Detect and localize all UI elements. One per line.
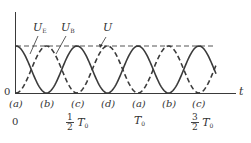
time-label-three-halves: 32 T0 (191, 113, 213, 132)
point-label: (d) (101, 99, 115, 109)
origin-label: 0 (4, 87, 10, 97)
point-label: (a) (9, 99, 23, 109)
time-label-half: 12 T0 (66, 113, 88, 132)
point-label: (c) (71, 99, 84, 109)
t-axis-label: t (239, 86, 243, 97)
label-ub: UB (61, 22, 75, 34)
ue-leader-line (30, 36, 38, 54)
time-label-0: 0 (12, 117, 18, 127)
point-label: (b) (40, 99, 54, 109)
point-label: (a) (132, 99, 146, 109)
u-arrowhead-icon (99, 44, 103, 48)
point-label: (c) (192, 99, 205, 109)
label-u: U (103, 22, 112, 33)
point-label: (b) (162, 99, 176, 109)
time-label-one: T0 (134, 115, 145, 127)
ub-leader-line (56, 36, 66, 54)
label-ue: UE (33, 22, 47, 34)
